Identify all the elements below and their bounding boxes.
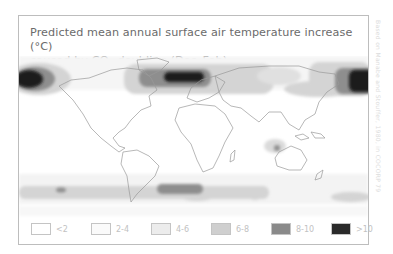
legend-label: 6-8	[236, 225, 260, 234]
legend-swatch-2-4	[91, 223, 111, 235]
legend-label: 2-4	[116, 225, 140, 234]
legend-swatch-gt10	[331, 223, 351, 235]
figure-frame: Predicted mean annual surface air temper…	[18, 15, 369, 245]
legend-swatch-4-6	[151, 223, 171, 235]
legend-item-2-4: 2-4	[91, 223, 140, 235]
legend-item-lt2: <2	[31, 223, 80, 235]
legend-label: 8-10	[296, 225, 320, 234]
legend: <2 2-4 4-6 6-8 8-10 >10	[31, 223, 391, 235]
legend-label: 4-6	[176, 225, 200, 234]
legend-item-gt10: >10	[331, 223, 380, 235]
legend-item-4-6: 4-6	[151, 223, 200, 235]
legend-item-6-8: 6-8	[211, 223, 260, 235]
legend-item-8-10: 8-10	[271, 223, 320, 235]
legend-swatch-8-10	[271, 223, 291, 235]
world-temperature-map	[19, 56, 368, 224]
title-line-1: Predicted mean annual surface air temper…	[30, 26, 368, 54]
legend-label: <2	[56, 225, 80, 234]
legend-swatch-lt2	[31, 223, 51, 235]
legend-swatch-6-8	[211, 223, 231, 235]
source-credit: Based on Manabe and Stouffer, 1980, in C…	[372, 20, 382, 220]
legend-label: >10	[356, 225, 380, 234]
